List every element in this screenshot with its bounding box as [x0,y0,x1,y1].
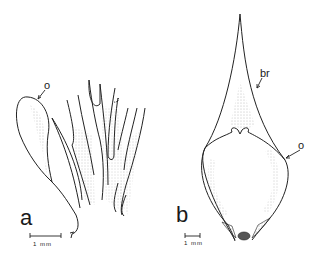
botanical-illustration [0,0,318,257]
panel-a-label: a [20,207,32,229]
panel-a-scale-bar [30,233,61,238]
panel-a-scales [52,80,145,216]
panel-b-scale-bar [185,233,200,238]
panel-b-callout-br: br [260,68,270,79]
panel-a-callout-arrow [38,90,45,99]
panel-b-ovary [202,128,289,241]
panel-b-callout-arrows [257,78,300,158]
panel-a-callout-o: o [44,80,50,91]
panel-b-scale-label: 1 mm [184,240,203,246]
panel-b-bract [203,14,285,240]
panel-b-label: b [176,204,188,226]
panel-b-callout-o: o [298,140,304,151]
panel-a-scale-label: 1 mm [33,241,52,247]
